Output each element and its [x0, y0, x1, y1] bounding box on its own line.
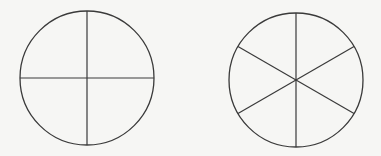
radius-line	[296, 47, 354, 81]
circle-divided-into-quarters	[20, 11, 154, 145]
radius-line	[238, 47, 296, 81]
radius-line	[296, 80, 354, 114]
diagram-canvas	[0, 0, 381, 156]
circle-divided-into-sixths	[229, 13, 363, 147]
radius-line	[238, 80, 296, 114]
